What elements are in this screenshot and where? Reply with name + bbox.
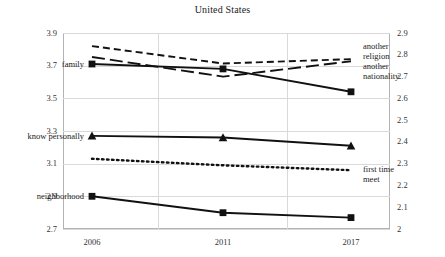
series-neighborhood	[89, 193, 355, 221]
series-label-neighborhood: neighborhood	[37, 191, 84, 201]
gridline	[63, 229, 390, 230]
data-point-marker	[89, 61, 96, 68]
series-line	[92, 159, 351, 170]
data-point-marker	[348, 88, 355, 95]
left-tick-label: 2.7	[46, 225, 57, 234]
data-point-marker	[89, 193, 96, 200]
left-tick-label: 3.1	[46, 159, 57, 168]
series-label-another-nationality: anothernationality	[363, 61, 399, 81]
right-tick-label: 2.4	[397, 137, 408, 146]
series-label-first-time-meet: first timemeet	[363, 164, 394, 184]
plot-area: 2.72.93.13.33.53.73.9 22.12.22.32.42.52.…	[63, 33, 390, 229]
series-line	[92, 46, 351, 63]
x-tick-label: 2006	[84, 238, 101, 247]
data-point-marker	[220, 209, 227, 216]
right-tick-label: 2.6	[397, 94, 408, 103]
series-label-another-religion: anotherreligion	[363, 41, 389, 61]
left-tick-label: 3.9	[46, 29, 57, 38]
x-tick-label: 2011	[215, 238, 232, 247]
chart-title: United States	[0, 4, 445, 15]
right-tick-label: 2.3	[397, 159, 408, 168]
data-point-marker	[220, 66, 227, 73]
right-tick-label: 2.2	[397, 181, 408, 190]
series-know-personally	[88, 132, 356, 150]
right-tick-label: 2	[397, 225, 401, 234]
series-another-religion	[92, 46, 351, 63]
series-label-know-personally: know personally	[28, 131, 84, 141]
left-tick-label: 3.7	[46, 61, 57, 70]
right-tick-label: 2.9	[397, 29, 408, 38]
right-tick-label: 2.5	[397, 116, 408, 125]
data-point-marker	[348, 214, 355, 221]
right-tick-label: 2.1	[397, 203, 408, 212]
right-tick-label: 2.8	[397, 50, 408, 59]
left-tick-label: 3.5	[46, 94, 57, 103]
series-label-family: family	[62, 59, 84, 69]
series-layer	[63, 33, 390, 229]
series-first-time-meet	[92, 159, 351, 170]
x-tick-label: 2017	[343, 238, 360, 247]
chart-container: United States 2.72.93.13.33.53.73.9 22.1…	[0, 0, 445, 257]
